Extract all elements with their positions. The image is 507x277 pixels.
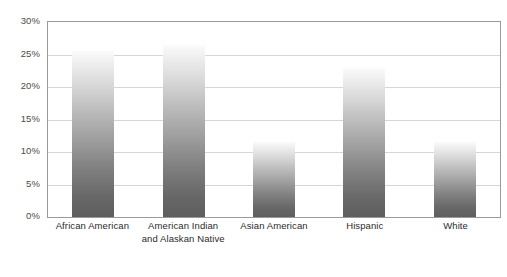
x-axis-category-label: African American: [47, 220, 138, 245]
bar-hispanic: [343, 68, 385, 217]
bar-slot: [319, 22, 409, 217]
plot-area: [47, 21, 501, 218]
y-axis-tick-label: 15%: [21, 114, 40, 124]
y-axis: 30% 25% 20% 15% 10% 5% 0%: [0, 0, 46, 277]
x-axis: African American American Indian and Ala…: [47, 220, 501, 245]
bar-white: [434, 142, 476, 217]
bars-layer: [48, 22, 500, 217]
x-axis-category-label: White: [410, 220, 501, 245]
y-axis-tick-label: 10%: [21, 146, 40, 156]
bar-slot: [138, 22, 228, 217]
bar-asian-american: [253, 142, 295, 217]
y-axis-tick-label: 30%: [21, 16, 40, 26]
bar-slot: [410, 22, 500, 217]
x-axis-category-label: Hispanic: [319, 220, 410, 245]
bar-slot: [229, 22, 319, 217]
bar-african-american: [72, 51, 114, 217]
bar-american-indian-and-alaskan-native: [163, 45, 205, 217]
x-axis-category-label: American Indian and Alaskan Native: [138, 220, 229, 245]
y-axis-tick-label: 20%: [21, 81, 40, 91]
x-axis-category-label: Asian American: [229, 220, 320, 245]
y-axis-tick-label: 0%: [26, 211, 40, 221]
bar-slot: [48, 22, 138, 217]
plot-inner: [48, 22, 500, 217]
y-axis-tick-label: 5%: [26, 179, 40, 189]
bar-chart: 30% 25% 20% 15% 10% 5% 0%: [0, 0, 507, 277]
y-axis-tick-label: 25%: [21, 49, 40, 59]
